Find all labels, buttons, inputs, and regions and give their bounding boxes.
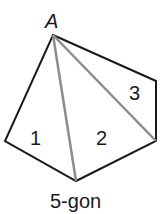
region-label-1: 1 <box>30 127 41 149</box>
vertex-label-a: A <box>44 10 58 32</box>
pentagon-outline <box>5 35 156 181</box>
pentagon-diagram: A 1 2 3 5-gon <box>0 0 165 214</box>
region-label-3: 3 <box>129 82 140 104</box>
caption-5-gon: 5-gon <box>50 190 101 212</box>
region-label-2: 2 <box>96 127 107 149</box>
